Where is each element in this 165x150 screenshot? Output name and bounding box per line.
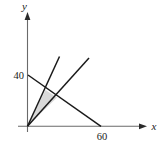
x-axis-label: x (151, 120, 157, 132)
y-axis-arrow-icon (25, 12, 31, 20)
x-axis-arrow-icon (139, 123, 147, 129)
x-tick-label-60: 60 (97, 131, 108, 142)
plot-canvas: y x 40 60 (0, 0, 165, 150)
ray-shallow (28, 58, 90, 126)
math-graph-figure: y x 40 60 (0, 0, 165, 150)
ray-steep (28, 57, 60, 127)
y-tick-label-40: 40 (14, 70, 25, 81)
y-axis-label: y (21, 0, 27, 12)
